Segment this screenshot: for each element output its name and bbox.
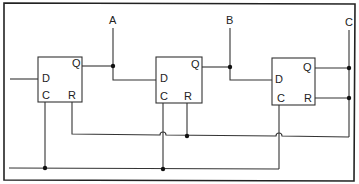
- junction-c-r: [347, 96, 351, 100]
- output-a-label: A: [109, 14, 117, 26]
- circuit-diagram: D Q C R D Q C R D Q C R A B C: [0, 0, 359, 184]
- ff2-d-label: D: [160, 72, 168, 84]
- ff1-r-label: R: [68, 89, 76, 101]
- ff1-q-label: Q: [72, 57, 81, 69]
- junction-reset: [185, 134, 189, 138]
- ff1-d-label: D: [42, 72, 50, 84]
- output-c-label: C: [345, 16, 353, 28]
- flipflop-3: D Q C R: [272, 58, 315, 105]
- junction-a: [111, 64, 115, 68]
- ff1-c-label: C: [42, 89, 50, 101]
- junction-clock-1: [43, 166, 47, 170]
- junction-c-q: [347, 66, 351, 70]
- output-b-label: B: [226, 14, 233, 26]
- flipflop-2: D Q C R: [156, 57, 202, 103]
- ff2-c-label: C: [160, 90, 168, 102]
- ff3-c-label: C: [277, 92, 285, 104]
- junction-b: [228, 65, 232, 69]
- flipflop-1: D Q C R: [38, 57, 82, 102]
- junction-clock-2: [161, 167, 165, 171]
- ff3-r-label: R: [304, 92, 312, 104]
- ff3-d-label: D: [275, 73, 283, 85]
- ff2-r-label: R: [184, 90, 192, 102]
- ff2-q-label: Q: [191, 58, 200, 70]
- ff3-q-label: Q: [303, 61, 312, 73]
